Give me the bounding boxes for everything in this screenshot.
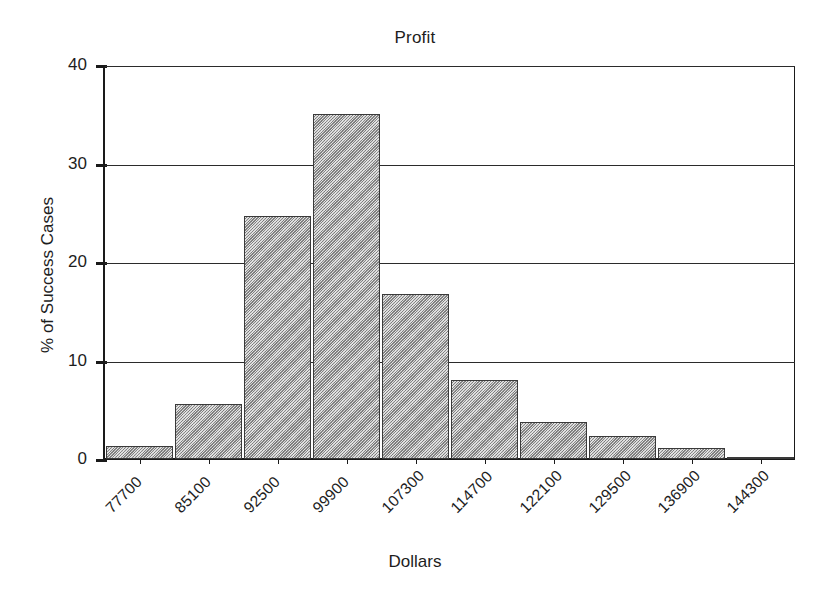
y-tick-label: 0 bbox=[39, 449, 87, 469]
bar bbox=[382, 294, 449, 459]
x-tick-label: 129500 bbox=[585, 467, 635, 517]
y-tick-label: 30 bbox=[39, 154, 87, 174]
x-tick-mark bbox=[692, 460, 693, 464]
y-tick-label: 10 bbox=[39, 351, 87, 371]
x-tick-mark bbox=[761, 460, 762, 464]
chart-figure: Profit % of Success Cases Dollars 010203… bbox=[0, 0, 830, 595]
x-tick-mark bbox=[623, 460, 624, 464]
bar bbox=[175, 404, 242, 459]
x-tick-mark bbox=[347, 460, 348, 464]
x-tick-label: 77700 bbox=[102, 473, 146, 517]
x-tick-label: 136900 bbox=[654, 467, 704, 517]
x-tick-mark bbox=[554, 460, 555, 464]
gridline bbox=[105, 263, 795, 264]
plot-area bbox=[105, 66, 795, 460]
bar bbox=[589, 436, 656, 459]
x-tick-label: 122100 bbox=[516, 467, 566, 517]
x-tick-label: 92500 bbox=[240, 473, 284, 517]
bar bbox=[244, 216, 311, 459]
bar bbox=[451, 380, 518, 459]
y-tick-label: 40 bbox=[39, 55, 87, 75]
x-tick-mark bbox=[278, 460, 279, 464]
bar bbox=[727, 457, 794, 459]
x-tick-label: 144300 bbox=[723, 467, 773, 517]
bar bbox=[106, 446, 173, 459]
x-tick-mark bbox=[209, 460, 210, 464]
x-tick-mark bbox=[485, 460, 486, 464]
gridline bbox=[105, 165, 795, 166]
x-tick-mark bbox=[140, 460, 141, 464]
y-axis-line bbox=[103, 66, 105, 462]
y-tick-label: 20 bbox=[39, 252, 87, 272]
gridline bbox=[105, 362, 795, 363]
bar bbox=[313, 114, 380, 459]
x-tick-label: 85100 bbox=[171, 473, 215, 517]
chart-title: Profit bbox=[0, 28, 830, 48]
x-axis-title: Dollars bbox=[0, 552, 830, 572]
bar bbox=[520, 422, 587, 459]
gridline bbox=[105, 66, 795, 67]
x-tick-label: 114700 bbox=[447, 467, 496, 516]
x-tick-label: 99900 bbox=[309, 473, 353, 517]
bar bbox=[658, 448, 725, 459]
x-tick-mark bbox=[416, 460, 417, 464]
x-tick-label: 107300 bbox=[378, 467, 428, 517]
